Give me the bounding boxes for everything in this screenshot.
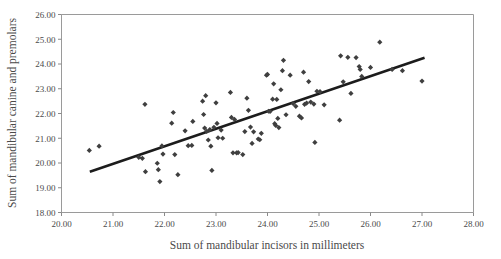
x-tick-label: 20.00 [51, 219, 72, 229]
y-tick-label: 24.00 [35, 59, 56, 69]
y-tick-label: 22.00 [35, 109, 56, 119]
y-tick-label: 23.00 [35, 84, 56, 94]
x-axis-tick-labels: 20.0021.0022.0023.0024.0025.0026.0027.00… [51, 219, 484, 229]
y-tick-label: 21.00 [35, 134, 56, 144]
y-axis-title: Sum of mandibular canine and premolars [6, 17, 19, 208]
y-tick-label: 26.00 [35, 10, 56, 20]
y-tick-label: 20.00 [35, 158, 56, 168]
x-tick-label: 27.00 [412, 219, 433, 229]
x-tick-label: 21.00 [103, 219, 124, 229]
y-tick-label: 19.00 [35, 183, 56, 193]
y-tick-label: 18.00 [35, 208, 56, 218]
x-tick-label: 25.00 [309, 219, 330, 229]
x-tick-label: 22.00 [154, 219, 175, 229]
x-tick-label: 24.00 [257, 219, 278, 229]
x-tick-label: 28.00 [463, 219, 484, 229]
y-tick-label: 25.00 [35, 35, 56, 45]
x-axis-title: Sum of mandibular incisors in millimeter… [170, 239, 365, 251]
scatter-plot-figure: 20.0021.0022.0023.0024.0025.0026.0027.00… [0, 0, 501, 259]
x-tick-label: 26.00 [360, 219, 381, 229]
y-axis-tick-labels: 18.0019.0020.0021.0022.0023.0024.0025.00… [35, 10, 56, 218]
x-tick-label: 23.00 [206, 219, 227, 229]
chart-canvas: 20.0021.0022.0023.0024.0025.0026.0027.00… [0, 0, 501, 259]
